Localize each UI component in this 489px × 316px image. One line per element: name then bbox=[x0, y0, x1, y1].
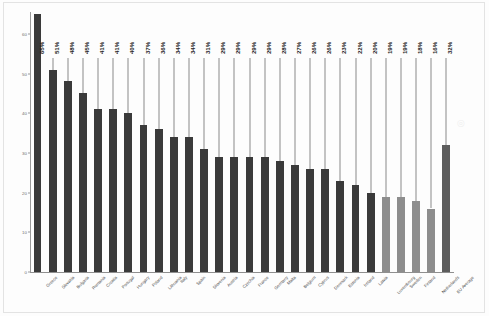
y-tick-label: 60 bbox=[22, 31, 27, 36]
y-tick-mark bbox=[28, 113, 30, 114]
bar bbox=[109, 109, 117, 272]
y-tick-label: 50 bbox=[22, 71, 27, 76]
bar bbox=[64, 81, 72, 272]
bar bbox=[352, 185, 360, 272]
x-tick-label: Hungary bbox=[136, 275, 151, 290]
y-tick-mark bbox=[28, 33, 30, 34]
y-tick-mark bbox=[28, 152, 30, 153]
chart-figure: ◎ 0102030405060 65%51%48%45%41%41%40%37%… bbox=[0, 0, 489, 316]
x-tick-label: Bulgaria bbox=[75, 275, 89, 289]
bar bbox=[230, 157, 238, 272]
bar bbox=[397, 197, 405, 272]
y-tick-mark bbox=[28, 232, 30, 233]
x-tick-label: Romania bbox=[91, 275, 106, 290]
bar bbox=[261, 157, 269, 272]
x-tick-label: Ireland bbox=[362, 275, 375, 288]
x-tick-label: Spain bbox=[195, 275, 206, 286]
bar bbox=[170, 137, 178, 272]
y-tick-label: 10 bbox=[22, 230, 27, 235]
bar bbox=[49, 70, 57, 272]
y-tick-mark bbox=[28, 192, 30, 193]
x-tick-label: Lithuania bbox=[167, 275, 183, 291]
x-tick-label: Portugal bbox=[121, 275, 136, 290]
y-tick-label: 30 bbox=[22, 150, 27, 155]
x-tick-label: Slovenia bbox=[212, 275, 227, 290]
y-tick-label: 0 bbox=[25, 270, 27, 275]
bar bbox=[215, 157, 223, 272]
y-axis bbox=[30, 12, 31, 273]
y-tick-mark bbox=[28, 73, 30, 74]
bar bbox=[321, 169, 329, 272]
bar bbox=[291, 165, 299, 272]
bar bbox=[79, 93, 87, 272]
x-tick-label: Latvia bbox=[377, 275, 388, 286]
y-tick-mark bbox=[28, 272, 30, 273]
x-tick-label: Austria bbox=[226, 275, 239, 288]
x-tick-label: Estonia bbox=[348, 275, 361, 288]
x-tick-label: Belgium bbox=[302, 275, 316, 289]
bar bbox=[306, 169, 314, 272]
bar bbox=[276, 161, 284, 272]
y-tick-label: 40 bbox=[22, 111, 27, 116]
x-tick-label: Czechia bbox=[242, 275, 256, 289]
plot-area: 0102030405060 65%51%48%45%41%41%40%37%36… bbox=[30, 12, 454, 273]
watermark: ◎ bbox=[456, 117, 467, 129]
x-tick-label: Cyprus bbox=[317, 275, 330, 288]
x-tick-label: Croatia bbox=[105, 275, 118, 288]
bar bbox=[367, 193, 375, 272]
x-tick-label: Finland bbox=[423, 275, 436, 288]
bar bbox=[427, 209, 435, 273]
bar bbox=[200, 149, 208, 272]
x-tick-label: Poland bbox=[150, 275, 163, 288]
x-tick-label: France bbox=[256, 275, 269, 288]
bar bbox=[382, 197, 390, 272]
bar bbox=[94, 109, 102, 272]
bar bbox=[185, 137, 193, 272]
y-tick-label: 20 bbox=[22, 190, 27, 195]
bar bbox=[246, 157, 254, 272]
bar bbox=[336, 181, 344, 272]
bar bbox=[442, 145, 450, 272]
bar bbox=[155, 129, 163, 272]
bar bbox=[124, 113, 132, 272]
bar bbox=[140, 125, 148, 272]
x-tick-label: Greece bbox=[45, 275, 58, 288]
x-tick-label: Denmark bbox=[333, 275, 349, 291]
bar bbox=[412, 201, 420, 272]
x-tick-label: Slovakia bbox=[60, 275, 75, 290]
x-axis bbox=[30, 272, 454, 273]
